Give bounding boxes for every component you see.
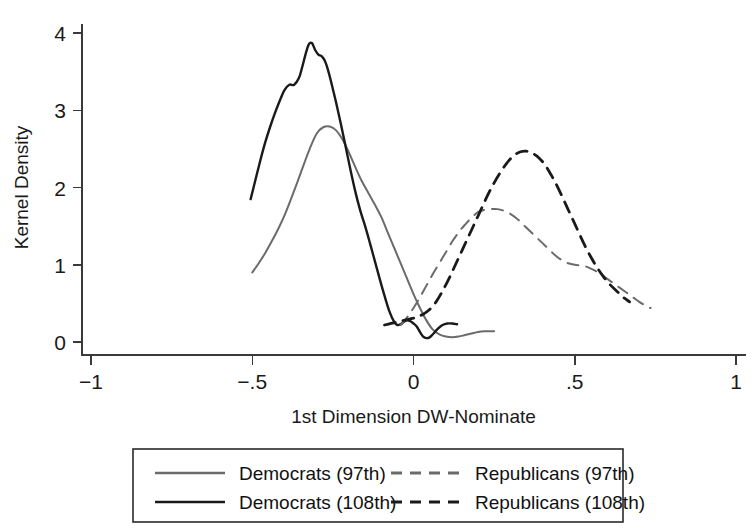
chart-series-group (251, 43, 651, 339)
x-tick-label: −.5 (237, 370, 267, 393)
y-tick-label: 2 (54, 177, 66, 200)
legend-item-label: Democrats (97th) (239, 463, 386, 484)
x-tick-label: .5 (566, 370, 584, 393)
kernel-density-figure: 01234−1−.50.51 1st Dimension DW-Nominate… (0, 0, 756, 529)
x-axis-title: 1st Dimension DW-Nominate (291, 406, 536, 427)
legend-item-label: Republicans (108th) (475, 492, 645, 513)
y-tick-label: 3 (54, 99, 66, 122)
y-tick-label: 1 (54, 254, 66, 277)
chart-axes: 01234−1−.50.51 (54, 22, 746, 393)
y-tick-label: 4 (54, 22, 66, 45)
x-tick-label: 0 (408, 370, 420, 393)
series-line (251, 43, 457, 339)
chart-legend: Democrats (97th)Republicans (97th)Democr… (133, 449, 645, 522)
chart-canvas: 01234−1−.50.51 1st Dimension DW-Nominate… (0, 0, 756, 529)
y-axis-title: Kernel Density (11, 125, 32, 249)
series-line (384, 151, 629, 325)
series-line (252, 126, 494, 337)
series-line (401, 209, 651, 325)
legend-item-label: Democrats (108th) (239, 492, 396, 513)
y-tick-label: 0 (54, 331, 66, 354)
x-tick-label: 1 (730, 370, 742, 393)
legend-item-label: Republicans (97th) (475, 463, 634, 484)
x-tick-label: −1 (79, 370, 103, 393)
